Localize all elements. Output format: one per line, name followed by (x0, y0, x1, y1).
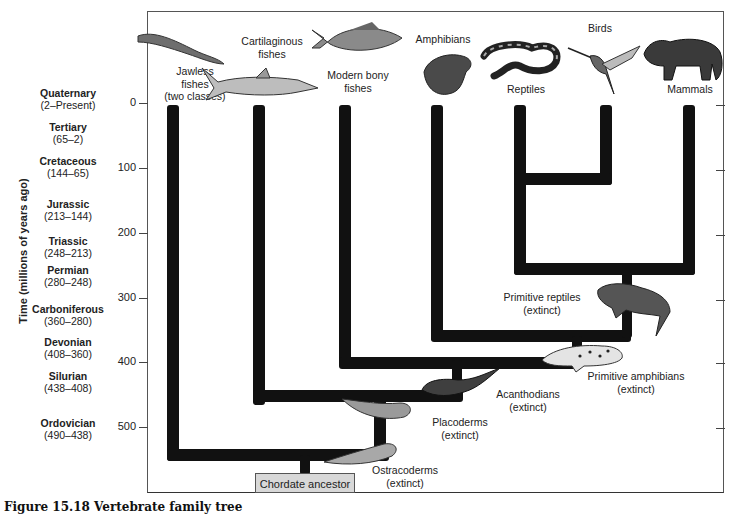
primitive-reptile-illustration (596, 282, 682, 338)
chordate-ancestor-box: Chordate ancestor (255, 473, 355, 493)
bony-fish-illustration (310, 22, 406, 56)
label-primitive-reptiles: Primitive reptiles(extinct) (492, 291, 592, 316)
branch-reptiles (514, 105, 526, 275)
tick-label-300: 300 (106, 291, 136, 303)
tick-left-300 (139, 298, 148, 299)
tick-left-200 (139, 233, 148, 234)
branch-amniote-horizontal (514, 263, 695, 275)
tick-right-100 (716, 170, 725, 171)
tick-right-200 (716, 235, 725, 236)
tick-left-0 (139, 103, 148, 104)
label-reptiles: Reptiles (496, 83, 556, 96)
tick-label-100: 100 (106, 161, 136, 173)
label-mammals: Mammals (660, 83, 720, 96)
tick-right-500 (716, 428, 725, 429)
tick-right-400 (716, 363, 725, 364)
shark-illustration (200, 66, 320, 104)
branch-bird-reptile-horizontal (514, 173, 612, 185)
tick-right-0 (716, 105, 725, 106)
acanthodian-illustration (418, 366, 502, 410)
period-jurassic: Jurassic(213–144) (12, 198, 124, 222)
frog-illustration (418, 48, 476, 98)
label-birds: Birds (580, 22, 620, 35)
tiger-illustration (640, 34, 726, 84)
period-carboniferous: Carboniferous(360–280) (12, 303, 124, 327)
tick-label-400: 400 (106, 355, 136, 367)
branch-cartilaginous (253, 105, 265, 405)
label-modern-bony-fishes: Modern bonyfishes (318, 69, 398, 94)
label-amphibians: Amphibians (408, 33, 478, 46)
branch-amphibians (431, 105, 443, 341)
tick-label-500: 500 (106, 420, 136, 432)
tick-left-400 (139, 362, 148, 363)
label-cartilaginous-fishes: Cartilaginousfishes (232, 35, 312, 60)
branch-modern-bony (339, 105, 351, 367)
ostracoderm-illustration (322, 440, 400, 470)
primitive-amphibian-illustration (540, 340, 626, 374)
hummingbird-illustration (566, 44, 642, 98)
placoderm-illustration (340, 395, 416, 425)
snake-illustration (480, 38, 564, 80)
tick-left-500 (139, 427, 148, 428)
branch-mammals (683, 105, 695, 275)
lamprey-illustration (134, 28, 226, 68)
tick-label-200: 200 (106, 226, 136, 238)
tick-label-0: 0 (106, 96, 136, 108)
branch-root-stem (300, 455, 310, 475)
period-permian: Permian(280–248) (12, 264, 124, 288)
period-silurian: Silurian(438–408) (12, 370, 124, 394)
period-triassic: Triassic(248–213) (12, 235, 124, 259)
label-placoderms: Placoderms(extinct) (425, 416, 495, 441)
figure-caption: Figure 15.18 Vertebrate family tree (4, 500, 242, 514)
tick-left-100 (139, 168, 148, 169)
branch-jawless (167, 105, 179, 461)
tick-right-300 (716, 300, 725, 301)
period-tertiary: Tertiary(65–2) (12, 121, 124, 145)
